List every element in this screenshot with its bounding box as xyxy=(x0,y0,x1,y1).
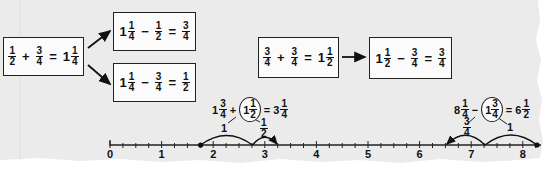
number-line-label: 0 xyxy=(107,148,113,160)
split-label-whole: 1 xyxy=(507,121,513,133)
number-line-label: 6 xyxy=(417,148,423,160)
split-label-whole: 1 xyxy=(221,122,227,134)
addition-equation: 134 + 112 = 314 xyxy=(212,97,288,122)
number-line-label: 7 xyxy=(468,148,474,160)
number-line-label: 3 xyxy=(262,148,268,160)
arrow-up-right-icon xyxy=(88,31,110,48)
number-line-label: 2 xyxy=(210,148,216,160)
number-line-label: 8 xyxy=(520,148,526,160)
circled-addend: 112 xyxy=(239,97,261,122)
number-line-label: 5 xyxy=(365,148,371,160)
number-line-label: 4 xyxy=(313,148,319,160)
number-line-label: 1 xyxy=(159,148,165,160)
split-label-fraction: 34 xyxy=(463,117,471,138)
arrow-down-right-icon xyxy=(88,65,110,84)
circled-subtrahend: 134 xyxy=(481,97,503,122)
split-label-fraction: 12 xyxy=(260,118,268,139)
number-line xyxy=(110,140,541,148)
